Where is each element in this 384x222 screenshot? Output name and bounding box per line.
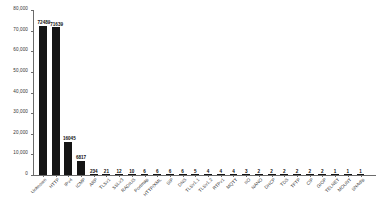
bar[interactable]: 2 (293, 10, 301, 175)
bar[interactable]: 21 (102, 10, 110, 175)
bar[interactable]: 6817 (77, 10, 85, 175)
x-axis-tick-label: DHCP (264, 177, 277, 190)
y-axis-tick-label: 70,000 (13, 27, 28, 32)
bar[interactable]: 1 (357, 10, 365, 175)
bar[interactable]: 1 (344, 10, 352, 175)
bar[interactable]: 6 (141, 10, 149, 175)
bar-value-label: 234 (90, 169, 98, 174)
x-axis-tick-label: NANO (251, 177, 264, 190)
bar[interactable]: 3 (242, 10, 250, 175)
bar-value-label: 6 (169, 169, 172, 174)
bar-value-label: 6 (156, 169, 159, 174)
x-axis-tick-label: MQTT (225, 177, 238, 190)
bar[interactable]: 72489 (39, 10, 47, 175)
bar[interactable]: 6 (179, 10, 187, 175)
bar[interactable]: 2 (268, 10, 276, 175)
x-axis-tick-label: TFTP (290, 177, 302, 189)
y-axis-tick-label: 10,000 (13, 150, 28, 155)
bar-rect (64, 142, 72, 175)
bar[interactable]: 12 (115, 10, 123, 175)
bar[interactable]: 2 (255, 10, 263, 175)
bar-value-label: 21 (104, 169, 109, 174)
bar-rect (77, 161, 85, 175)
bar[interactable]: 234 (90, 10, 98, 175)
x-axis-tick-label: ICMP (74, 177, 86, 189)
bar-value-label: 1 (347, 169, 350, 174)
bar-value-label: 16045 (63, 136, 76, 141)
bar-value-label: 6 (143, 169, 146, 174)
y-axis-tick-label: 40,000 (13, 89, 28, 94)
bar-value-label: 71639 (50, 22, 63, 27)
x-axis-tick-label: TDS (279, 177, 289, 187)
x-axis-tick-label: SIP (166, 177, 175, 186)
bar-value-label: 2 (308, 169, 311, 174)
bar-value-label: 10 (129, 169, 134, 174)
bar[interactable]: 4 (204, 10, 212, 175)
bar-value-label: 6 (181, 169, 184, 174)
bar-value-label: 1 (334, 169, 337, 174)
bar[interactable]: 6 (166, 10, 174, 175)
bar-value-label: 5 (194, 169, 197, 174)
bar-value-label: 12 (117, 169, 122, 174)
bar[interactable]: 2 (318, 10, 326, 175)
x-axis-tick-label: HTTP (48, 177, 60, 189)
bar-value-label: 1 (359, 169, 362, 174)
x-axis-tick-label: CIP (306, 177, 315, 186)
bar[interactable]: 6 (153, 10, 161, 175)
y-axis-tick-label: 50,000 (13, 68, 28, 73)
bar[interactable]: 16045 (64, 10, 72, 175)
plot-area: 7248971639160456817234211210666654443222… (33, 10, 376, 175)
bar-value-label: 2 (258, 169, 261, 174)
bar[interactable]: 5 (191, 10, 199, 175)
bar-rect (39, 26, 47, 176)
y-axis-tick-label: 60,000 (13, 47, 28, 52)
x-axis-tick-label: Unknown (30, 177, 48, 195)
y-axis-tick-mark (31, 175, 33, 176)
bar-value-label: 4 (232, 169, 235, 174)
x-axis-line (33, 175, 376, 176)
y-axis-tick-label: 30,000 (13, 109, 28, 114)
bar[interactable]: 4 (230, 10, 238, 175)
bar-value-label: 2 (321, 169, 324, 174)
bar-chart: 010,00020,00030,00040,00050,00060,00070,… (0, 0, 384, 222)
x-axis-tick-label: IIO (243, 177, 251, 185)
bar[interactable]: 2 (306, 10, 314, 175)
bar[interactable]: 71639 (52, 10, 60, 175)
bar-value-label: 4 (219, 169, 222, 174)
bar-rect (52, 27, 60, 175)
x-axis-tick-label: IPv4 (63, 177, 73, 187)
y-axis-tick-label: 0 (25, 171, 28, 176)
bar[interactable]: 4 (217, 10, 225, 175)
x-axis-tick-label: RTPv1 (212, 177, 226, 191)
bar-value-label: 6817 (76, 155, 86, 160)
bar[interactable]: 2 (280, 10, 288, 175)
x-axis-tick-label: TLSv1 (98, 177, 111, 190)
bar[interactable]: 10 (128, 10, 136, 175)
y-axis-tick-label: 80,000 (13, 6, 28, 11)
bar-value-label: 4 (207, 169, 210, 174)
bar-value-label: 2 (270, 169, 273, 174)
bar-value-label: 3 (245, 169, 248, 174)
bar-value-label: 2 (296, 169, 299, 174)
y-axis-tick-label: 20,000 (13, 130, 28, 135)
bar-value-label: 72489 (38, 20, 51, 25)
bar-value-label: 2 (283, 169, 286, 174)
x-axis-tick-label: SNAdlp (351, 177, 366, 192)
bar[interactable]: 1 (331, 10, 339, 175)
